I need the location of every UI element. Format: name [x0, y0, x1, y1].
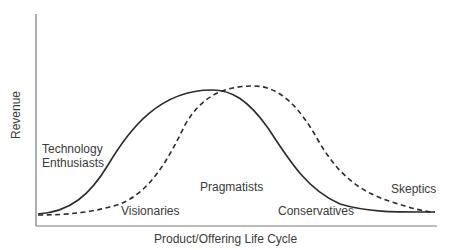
label-technology: Technology — [42, 142, 103, 156]
label-visionaries: Visionaries — [121, 204, 179, 218]
y-axis-label: Revenue — [9, 99, 23, 139]
label-conservatives: Conservatives — [278, 204, 354, 218]
label-enthusiasts: Enthusiasts — [42, 156, 104, 170]
label-pragmatists: Pragmatists — [200, 180, 263, 194]
chart-canvas — [0, 0, 453, 250]
x-axis-label: Product/Offering Life Cycle — [154, 232, 297, 246]
label-skeptics: Skeptics — [391, 182, 436, 196]
